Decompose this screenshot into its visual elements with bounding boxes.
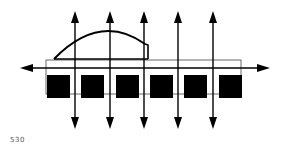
vertical-arrow-1 bbox=[71, 11, 79, 129]
dome-arc bbox=[54, 31, 145, 59]
square-6 bbox=[219, 75, 242, 98]
square-3 bbox=[116, 75, 139, 98]
vertical-arrow-5 bbox=[209, 11, 217, 129]
figure-number-label: 530 bbox=[10, 136, 25, 144]
square-1 bbox=[47, 75, 70, 98]
vertical-arrow-4 bbox=[174, 11, 182, 129]
diagram-canvas: 530 bbox=[0, 0, 285, 153]
vertical-arrow-3 bbox=[140, 11, 148, 129]
diagram-svg bbox=[0, 0, 285, 153]
vertical-arrow-2 bbox=[106, 11, 114, 129]
square-4 bbox=[150, 75, 173, 98]
dome-bracket bbox=[145, 44, 148, 59]
square-2 bbox=[81, 75, 104, 98]
horizontal-double-arrow-icon bbox=[20, 64, 270, 72]
square-5 bbox=[184, 75, 207, 98]
